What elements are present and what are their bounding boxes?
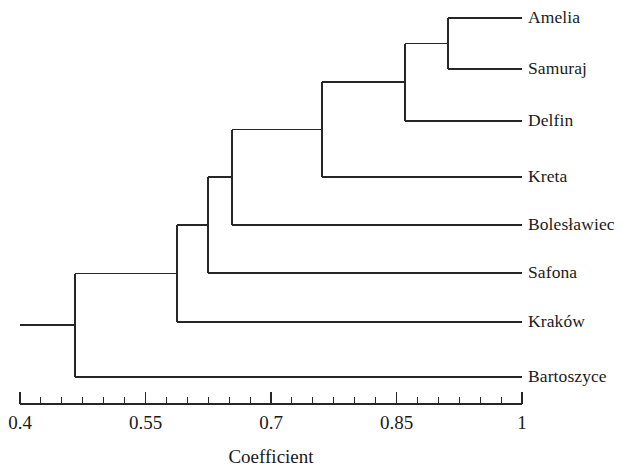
leaf-label-bartoszyce: Bartoszyce <box>528 368 607 386</box>
tick-label-1: 1 <box>517 412 527 434</box>
leaf-label-safona: Safona <box>528 264 577 282</box>
leaf-label-delfin: Delfin <box>528 112 573 130</box>
dendrogram-figure: AmeliaSamurajDelfinKretaBolesławiecSafon… <box>0 0 623 474</box>
leaf-label-kraków: Kraków <box>528 313 585 331</box>
leaf-label-amelia: Amelia <box>528 9 580 27</box>
tick-label-0_4: 0.4 <box>8 412 32 434</box>
tick-label-0_85: 0.85 <box>380 412 413 434</box>
axis-group <box>20 392 522 404</box>
leaf-label-kreta: Kreta <box>528 168 567 186</box>
leaf-label-samuraj: Samuraj <box>528 60 587 78</box>
branches-group <box>20 18 522 377</box>
axis-title: Coefficient <box>228 446 313 468</box>
leaf-label-bolesławiec: Bolesławiec <box>528 216 615 234</box>
tick-label-0_7: 0.7 <box>259 412 283 434</box>
tick-label-0_55: 0.55 <box>129 412 162 434</box>
